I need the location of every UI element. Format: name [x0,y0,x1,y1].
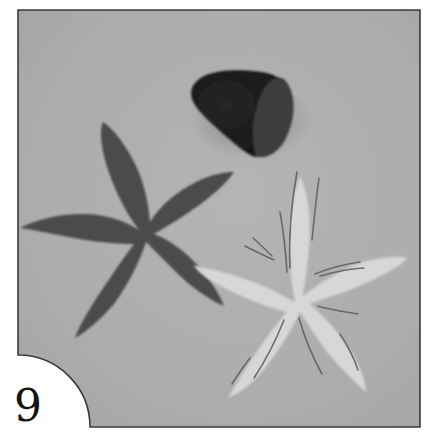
photo-area [18,10,420,427]
step-figure: 9 [0,0,431,447]
step-number: 9 [14,384,42,428]
step-photo [0,0,431,447]
